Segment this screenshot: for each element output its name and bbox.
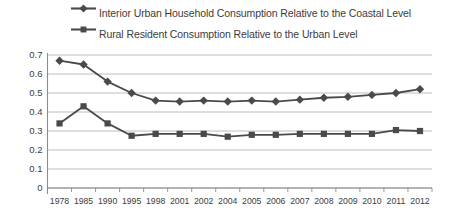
data-point-square xyxy=(177,131,183,137)
y-tick-label: 0.2 xyxy=(29,144,42,155)
data-point-diamond xyxy=(200,96,208,104)
x-tick-label: 1985 xyxy=(74,196,93,206)
x-tick-label: 2001 xyxy=(170,196,189,206)
series-line xyxy=(60,61,420,102)
data-point-diamond xyxy=(416,85,424,93)
y-tick-label: 0.6 xyxy=(29,68,42,79)
x-tick-label: 2010 xyxy=(362,196,381,206)
x-tick-label: 1998 xyxy=(146,196,165,206)
data-point-square xyxy=(297,131,303,137)
data-point-square xyxy=(321,131,327,137)
data-point-diamond xyxy=(224,97,232,105)
x-axis xyxy=(48,188,433,192)
chart-plot-area: 00.10.20.30.40.50.60.7 19781985199019951… xyxy=(0,0,449,223)
data-point-diamond xyxy=(175,97,183,105)
data-point-diamond xyxy=(248,96,256,104)
data-point-diamond xyxy=(320,94,328,102)
data-point-square xyxy=(273,132,279,138)
y-tick-label: 0 xyxy=(37,182,42,193)
data-point-diamond xyxy=(368,91,376,99)
data-point-square xyxy=(393,127,399,133)
x-tick-label: 2008 xyxy=(314,196,333,206)
x-tick-label: 2002 xyxy=(194,196,213,206)
data-point-diamond xyxy=(344,93,352,101)
y-tick-label: 0.4 xyxy=(29,106,42,117)
x-tick-label: 2012 xyxy=(410,196,429,206)
y-axis-tick-labels: 00.10.20.30.40.50.60.7 xyxy=(29,49,42,193)
x-tick-label: 1995 xyxy=(122,196,141,206)
x-tick-label: 1990 xyxy=(98,196,117,206)
data-point-square xyxy=(80,103,86,109)
x-tick-label: 2006 xyxy=(266,196,285,206)
data-point-diamond xyxy=(151,96,159,104)
data-point-square xyxy=(129,133,135,139)
data-point-diamond xyxy=(392,89,400,97)
data-point-diamond xyxy=(55,57,63,65)
x-tick-label: 2009 xyxy=(338,196,357,206)
x-tick-label: 2004 xyxy=(218,196,237,206)
data-point-square xyxy=(104,120,110,126)
x-tick-label: 1978 xyxy=(50,196,69,206)
x-tick-label: 2005 xyxy=(242,196,261,206)
x-tick-label: 2007 xyxy=(290,196,309,206)
data-point-square xyxy=(417,128,423,134)
y-tick-label: 0.5 xyxy=(29,87,42,98)
data-point-square xyxy=(201,131,207,137)
y-tick-label: 0.7 xyxy=(29,49,42,60)
y-tick-label: 0.3 xyxy=(29,125,42,136)
data-point-square xyxy=(225,134,231,140)
data-point-diamond xyxy=(272,97,280,105)
data-point-square xyxy=(249,132,255,138)
y-tick-label: 0.1 xyxy=(29,163,42,174)
series-line xyxy=(60,106,420,136)
chart-container: Interior Urban Household Consumption Rel… xyxy=(0,0,449,223)
data-point-square xyxy=(345,131,351,137)
x-tick-label: 2011 xyxy=(387,196,406,206)
data-point-diamond xyxy=(127,89,135,97)
data-point-diamond xyxy=(296,95,304,103)
series-lines xyxy=(55,57,424,140)
data-point-square xyxy=(369,131,375,137)
data-point-square xyxy=(56,120,62,126)
x-axis-tick-labels: 1978198519901995199820012002200420052006… xyxy=(50,196,430,206)
data-point-square xyxy=(153,131,159,137)
